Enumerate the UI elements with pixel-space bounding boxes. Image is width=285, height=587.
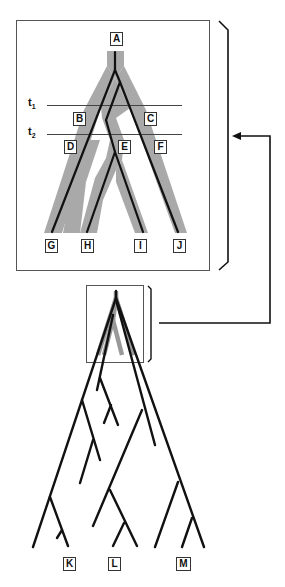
- time-label-t1: t1: [28, 96, 36, 110]
- tip-label-h: H: [81, 239, 94, 253]
- node-label-f: F: [154, 140, 167, 154]
- zoom-bracket: [148, 286, 151, 362]
- node-label-d: D: [64, 140, 77, 154]
- tip-label-m: M: [176, 557, 191, 571]
- time-label-t2: t2: [28, 125, 36, 139]
- tip-label-g: G: [45, 239, 58, 253]
- lower-tree: [33, 291, 204, 547]
- arrowhead-icon: [232, 132, 241, 140]
- node-label-a: A: [110, 32, 123, 46]
- inset-bracket: [219, 21, 228, 270]
- node-label-c: C: [144, 112, 157, 126]
- node-label-e: E: [118, 140, 131, 154]
- tip-label-k: K: [63, 557, 76, 571]
- node-label-b: B: [73, 112, 86, 126]
- tip-label-i: I: [134, 239, 147, 253]
- tip-label-j: J: [173, 239, 186, 253]
- phylogeny-diagram: [0, 0, 285, 587]
- tip-label-l: L: [108, 557, 121, 571]
